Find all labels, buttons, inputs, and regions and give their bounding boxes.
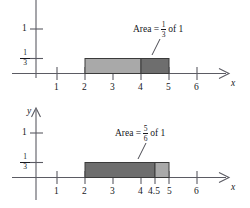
figure-two-number-line-bar-charts: 1 1 3 1 2 3 4 5 6 x Area = 1 3 of 1 bbox=[0, 0, 250, 208]
y-tick-label-1-top: 1 bbox=[22, 24, 27, 34]
chart-panel-top: 1 1 3 1 2 3 4 5 6 x Area = 1 3 of 1 bbox=[0, 0, 250, 104]
bar-segment-light-bottom bbox=[155, 163, 169, 178]
annotation-prefix-top: Area = bbox=[133, 25, 159, 35]
x-tick-label-1-top: 1 bbox=[54, 83, 59, 93]
annotation-area-bottom: Area = 5 6 of 1 bbox=[115, 125, 165, 143]
y-axis-label-bottom: y bbox=[27, 107, 31, 117]
x-tick-label-2-bottom: 2 bbox=[82, 187, 87, 197]
x-tick-label-6-top: 6 bbox=[194, 83, 199, 93]
y-tick-label-1-bottom: 1 bbox=[22, 128, 27, 138]
bar-segment-light-top bbox=[85, 59, 141, 74]
y-tick-label-one-third-numerator-bottom: 1 bbox=[20, 153, 30, 161]
bar-segment-dark-bottom bbox=[85, 163, 155, 178]
annotation-fraction-bottom: 5 6 bbox=[143, 125, 148, 143]
y-tick-label-one-third-top: 1 3 bbox=[20, 49, 30, 67]
annotation-suffix-top: of 1 bbox=[168, 25, 183, 35]
annotation-leader-line-top bbox=[152, 39, 160, 55]
bar-segment-dark-top bbox=[141, 59, 169, 74]
chart-svg-bottom bbox=[0, 104, 250, 208]
y-tick-label-one-third-bottom: 1 3 bbox=[20, 153, 30, 171]
x-tick-label-3-bottom: 3 bbox=[110, 187, 115, 197]
y-tick-label-one-third-denominator-bottom: 3 bbox=[20, 163, 30, 171]
annotation-fraction-denominator-bottom: 6 bbox=[144, 135, 148, 143]
x-tick-label-2-top: 2 bbox=[82, 83, 87, 93]
chart-panel-bottom: y 1 1 3 1 2 3 4 4.5 5 6 x Area = 5 6 of … bbox=[0, 104, 250, 208]
annotation-leader-line-bottom bbox=[138, 143, 146, 159]
chart-svg-top bbox=[0, 0, 250, 104]
y-tick-label-one-third-numerator-top: 1 bbox=[20, 49, 30, 57]
x-tick-label-5-top: 5 bbox=[166, 83, 171, 93]
x-tick-label-5-bottom: 5 bbox=[167, 187, 172, 197]
x-tick-label-3-top: 3 bbox=[110, 83, 115, 93]
x-axis-label-top: x bbox=[231, 79, 235, 89]
x-tick-label-4-bottom: 4 bbox=[138, 187, 143, 197]
x-axis-label-bottom: x bbox=[231, 183, 235, 193]
annotation-area-top: Area = 1 3 of 1 bbox=[133, 21, 183, 39]
x-tick-label-4-top: 4 bbox=[138, 83, 143, 93]
annotation-prefix-bottom: Area = bbox=[115, 129, 141, 139]
x-tick-label-4point5-bottom: 4.5 bbox=[148, 187, 160, 197]
x-tick-label-1-bottom: 1 bbox=[54, 187, 59, 197]
annotation-fraction-numerator-bottom: 5 bbox=[144, 125, 148, 133]
annotation-fraction-denominator-top: 3 bbox=[162, 31, 166, 39]
annotation-fraction-numerator-top: 1 bbox=[162, 21, 166, 29]
y-tick-label-one-third-denominator-top: 3 bbox=[20, 59, 30, 67]
x-tick-label-6-bottom: 6 bbox=[194, 187, 199, 197]
annotation-fraction-top: 1 3 bbox=[161, 21, 166, 39]
annotation-suffix-bottom: of 1 bbox=[150, 129, 165, 139]
